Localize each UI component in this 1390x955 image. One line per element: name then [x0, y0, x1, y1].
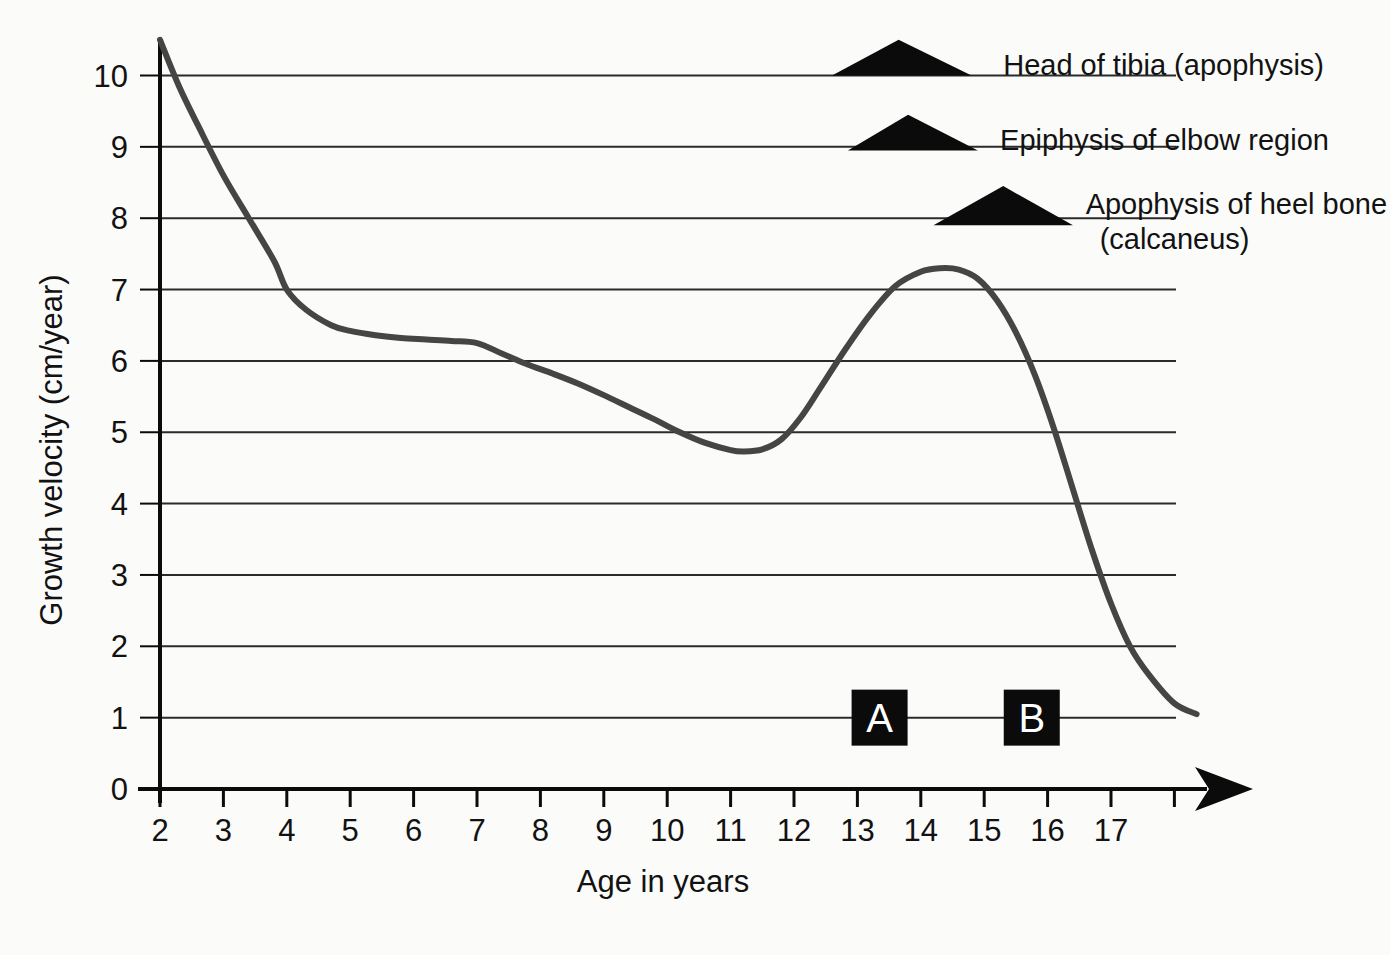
marker-a-label: A — [866, 696, 893, 740]
x-tick-label-3: 3 — [215, 813, 232, 848]
y-tick-label-10: 10 — [94, 59, 128, 94]
x-tick-label-12: 12 — [777, 813, 811, 848]
annotation-label-epiphysis-of-elbow-region: Epiphysis of elbow region — [1000, 124, 1329, 156]
y-tick-label-0: 0 — [111, 772, 128, 807]
x-tick-label-16: 16 — [1030, 813, 1064, 848]
annotation-label-apophysis-of-heel-bone: Apophysis of heel bone — [1086, 188, 1388, 220]
x-tick-label-15: 15 — [967, 813, 1001, 848]
x-tick-label-7: 7 — [468, 813, 485, 848]
growth-velocity-chart-page: 012345678910 234567891011121314151617 He… — [0, 0, 1390, 955]
x-tick-label-11: 11 — [715, 813, 747, 848]
x-tick-label-13: 13 — [840, 813, 874, 848]
x-tick-label-8: 8 — [532, 813, 549, 848]
y-tick-label-4: 4 — [111, 487, 128, 522]
marker-b-label: B — [1018, 696, 1045, 740]
x-tick-label-17: 17 — [1094, 813, 1128, 848]
y-tick-label-8: 8 — [111, 201, 128, 236]
y-tick-label-1: 1 — [111, 701, 128, 736]
x-axis-title: Age in years — [577, 864, 749, 899]
x-tick-label-5: 5 — [342, 813, 359, 848]
y-tick-label-5: 5 — [111, 415, 128, 450]
y-tick-label-3: 3 — [111, 558, 128, 593]
annotation-label-head-of-tibia: Head of tibia (apophysis) — [1003, 49, 1324, 81]
y-tick-label-2: 2 — [111, 629, 128, 664]
x-tick-label-14: 14 — [904, 813, 938, 848]
x-tick-label-2: 2 — [151, 813, 168, 848]
x-tick-label-9: 9 — [595, 813, 612, 848]
chart-canvas: 012345678910 234567891011121314151617 He… — [0, 0, 1390, 955]
y-axis-title: Growth velocity (cm/year) — [34, 274, 69, 625]
x-tick-label-10: 10 — [650, 813, 684, 848]
y-tick-label-9: 9 — [111, 130, 128, 165]
annotation-label-apophysis-of-heel-bone-line2: (calcaneus) — [1100, 223, 1250, 255]
x-tick-label-6: 6 — [405, 813, 422, 848]
y-tick-label-6: 6 — [111, 344, 128, 379]
x-tick-label-4: 4 — [278, 813, 295, 848]
y-tick-label-7: 7 — [111, 273, 128, 308]
